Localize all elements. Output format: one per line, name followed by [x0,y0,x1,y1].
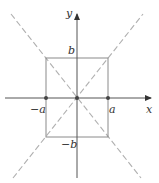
point-neg-a [44,96,48,100]
diagram-svg [0,0,159,183]
neg-b-tick-label: −b [61,139,77,150]
point-origin [75,96,79,100]
x-axis-label: x [146,104,152,115]
asymptote-line-positive-slope [13,14,143,178]
neg-a-tick-label: −a [30,104,46,115]
asymptote-line-negative-slope [11,14,141,178]
a-tick-label: a [109,104,116,115]
hyperbola-asymptote-diagram: y x b −b −a a [0,0,159,183]
y-axis-label: y [66,8,72,19]
point-pos-a [106,96,110,100]
b-tick-label: b [68,45,75,56]
